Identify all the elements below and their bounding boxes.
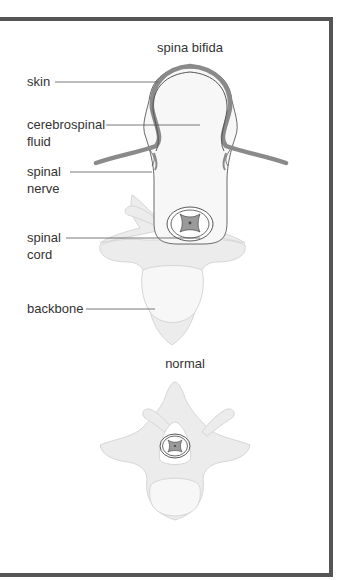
label-nerve-line2: nerve — [27, 181, 60, 197]
spine-diagram — [0, 0, 345, 580]
spina-bifida-title: spina bifida — [130, 40, 250, 55]
normal-vertebra-illustration — [100, 382, 250, 520]
label-skin: skin — [27, 74, 50, 90]
label-csf-line2: fluid — [27, 134, 51, 150]
label-backbone: backbone — [27, 301, 83, 317]
normal-title: normal — [125, 356, 245, 371]
label-csf-line1: cerebrospinal — [27, 117, 105, 133]
spina-bifida-illustration — [96, 66, 286, 345]
label-nerve-line1: spinal — [27, 164, 61, 180]
label-cord-line2: cord — [27, 247, 52, 263]
label-cord-line1: spinal — [27, 230, 61, 246]
